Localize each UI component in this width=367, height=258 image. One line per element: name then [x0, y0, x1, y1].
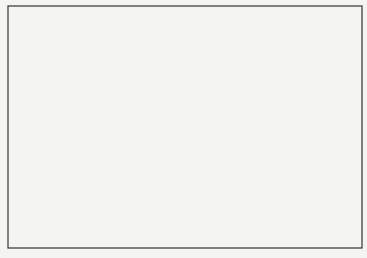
figure-frame — [8, 6, 362, 248]
radiation-flux-chart — [0, 0, 367, 258]
